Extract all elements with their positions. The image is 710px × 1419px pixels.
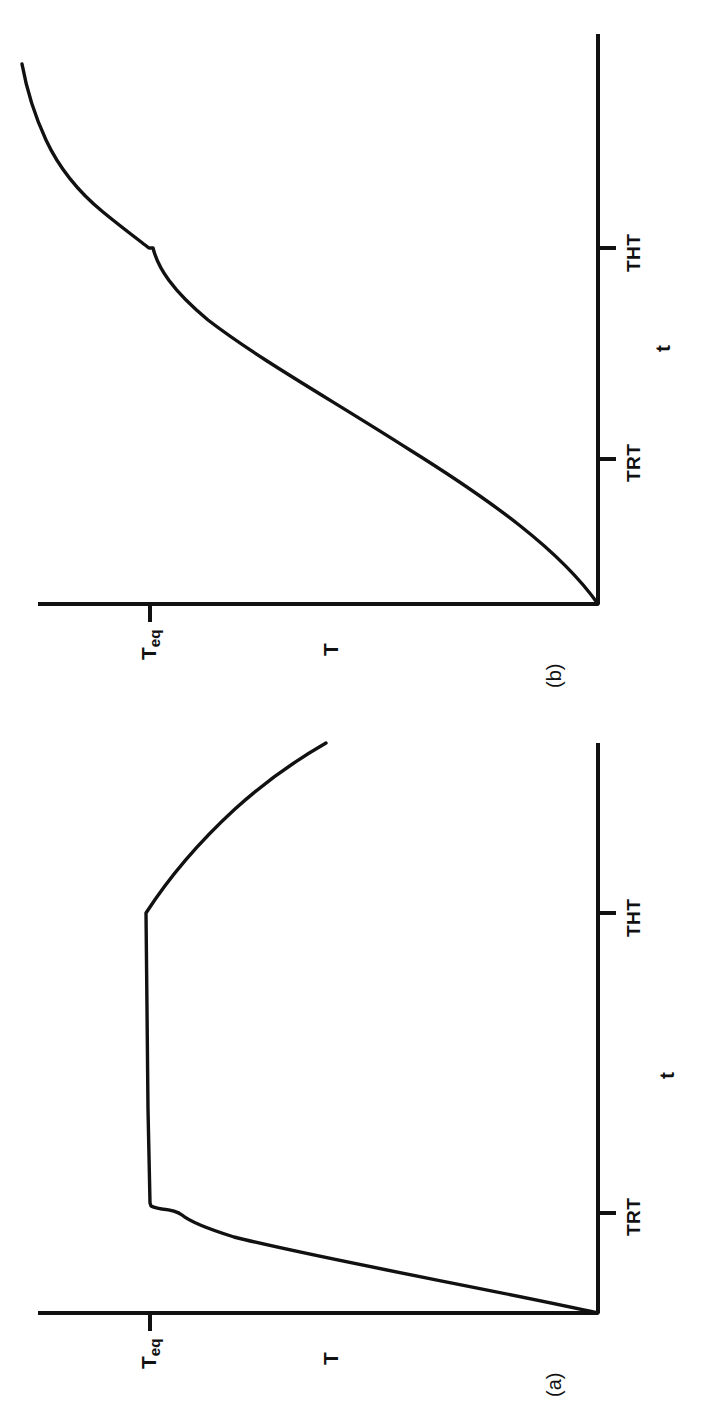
panel-b-label: (b) xyxy=(544,664,564,688)
panel-a-xtick-label-trt: TRT xyxy=(624,1198,643,1236)
panel-a-rotated-content: (a) Teq T TRT THT t xyxy=(20,719,690,1409)
panel-a-label: (a) xyxy=(544,1373,564,1397)
panel-b-x-axis-label: t xyxy=(652,345,673,352)
panel-b-plot xyxy=(20,10,690,700)
panel-a-x-axis-label: t xyxy=(656,1072,677,1079)
panel-a-curve xyxy=(146,743,598,1313)
panel-b-ytick-label-teq: Teq xyxy=(138,630,162,660)
panel-b-xtick-label-tht: THT xyxy=(624,234,643,272)
panel-b-rotated-content: (b) Teq T TRT THT t xyxy=(20,10,690,700)
panel-b: (b) Teq T TRT THT t xyxy=(0,0,710,710)
panel-a-ytick-label-teq: Teq xyxy=(138,1339,162,1369)
panel-a-plot xyxy=(20,719,690,1409)
figure-page: (b) Teq T TRT THT t (a) Teq xyxy=(0,0,710,1419)
panel-b-curve xyxy=(22,64,598,604)
panel-a-xtick-label-tht: THT xyxy=(624,899,643,937)
panel-b-y-axis-label: T xyxy=(320,643,341,656)
panel-b-xtick-label-trt: TRT xyxy=(624,444,643,482)
panel-a: (a) Teq T TRT THT t xyxy=(0,709,710,1419)
panel-a-y-axis-label: T xyxy=(320,1352,341,1365)
